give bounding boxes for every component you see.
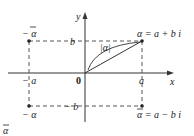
y-axis-label: y	[75, 11, 81, 22]
caption-conj: α	[3, 125, 9, 136]
tick-x-neg: − a	[22, 75, 36, 86]
complex-plane-diagram: y x 0 b − b − a a α = a + b i − α − α α …	[0, 0, 194, 136]
point-conj	[140, 104, 144, 108]
label-neg-conj: − α	[22, 28, 37, 39]
vector-alpha	[85, 41, 142, 73]
origin-label: 0	[76, 75, 81, 86]
tick-y-neg: − b	[64, 101, 78, 112]
point-neg-alpha	[27, 104, 31, 108]
label-conj: α = a − b i	[137, 109, 181, 120]
label-alpha: α = a + b i	[137, 28, 181, 39]
point-neg-conj	[27, 39, 31, 43]
modulus-label: |α|	[100, 42, 111, 53]
label-neg-alpha: − α	[22, 109, 37, 120]
x-axis-label: x	[169, 76, 175, 87]
y-axis-arrow-icon	[83, 12, 88, 19]
tick-y-pos: b	[70, 36, 75, 47]
point-alpha	[140, 39, 144, 43]
x-axis-arrow-icon	[167, 71, 174, 76]
tick-x-pos: a	[139, 75, 144, 86]
